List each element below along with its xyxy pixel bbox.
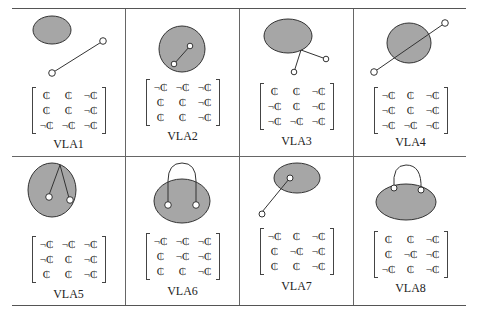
matrix-entry: ₵ <box>400 88 422 103</box>
matrix-entry: ₵ <box>58 103 80 118</box>
matrix-entry: ¬₵ <box>80 252 102 267</box>
matrix-entry: ¬₵ <box>378 103 400 118</box>
cell-label: VLA4 <box>354 135 467 150</box>
line-looping-outside-region-icon <box>126 157 239 237</box>
matrix-entry: ₵ <box>264 244 286 259</box>
matrix-entry: ¬₵ <box>194 234 216 249</box>
relation-matrix: ₵ ₵ ¬₵ ¬₵ ₵ ¬₵ ¬₵ ¬₵ ¬₵ <box>260 83 334 130</box>
matrix-entry: ¬₵ <box>422 247 444 262</box>
matrix-entry: ¬₵ <box>422 103 444 118</box>
matrix-entry: ¬₵ <box>150 234 172 249</box>
matrix-entry: ¬₵ <box>378 118 400 133</box>
line-crossing-region-icon <box>354 9 467 84</box>
matrix-entry: ₵ <box>264 259 286 274</box>
matrix-entry: ₵ <box>378 232 400 247</box>
matrix-entry: ¬₵ <box>80 237 102 252</box>
matrix-entry: ¬₵ <box>264 114 286 129</box>
matrix-entry: ¬₵ <box>36 118 58 133</box>
relation-matrix: ¬₵ ¬₵ ¬₵ ¬₵ ₵ ¬₵ ₵ ₵ ¬₵ <box>32 236 106 283</box>
matrix-entry: ₵ <box>150 110 172 125</box>
cell-vla5: ¬₵ ¬₵ ¬₵ ¬₵ ₵ ¬₵ ₵ ₵ ¬₵ VLA5 <box>12 157 125 304</box>
matrix-entry: ₵ <box>286 229 308 244</box>
matrix-entry: ¬₵ <box>36 237 58 252</box>
cell-vla1: ₵ ₵ ¬₵ ₵ ₵ ¬₵ ¬₵ ¬₵ ¬₵ VLA1 <box>12 9 125 156</box>
matrix-entry: ¬₵ <box>80 267 102 282</box>
relation-matrix: ¬₵ ¬₵ ¬₵ ₵ ¬₵ ¬₵ ₵ ₵ ¬₵ <box>146 233 220 280</box>
matrix-entry: ¬₵ <box>308 99 330 114</box>
matrix-entry: ¬₵ <box>194 80 216 95</box>
matrix-entry: ¬₵ <box>308 229 330 244</box>
matrix-entry: ₵ <box>286 259 308 274</box>
matrix-entry: ¬₵ <box>400 118 422 133</box>
matrix-entry: ¬₵ <box>264 229 286 244</box>
relation-matrix: ₵ ₵ ¬₵ ₵ ¬₵ ¬₵ ¬₵ ₵ ¬₵ <box>374 231 448 278</box>
relation-matrix: ₵ ₵ ¬₵ ₵ ₵ ¬₵ ¬₵ ¬₵ ¬₵ <box>32 87 106 134</box>
matrix-entry: ¬₵ <box>378 262 400 277</box>
matrix-entry: ¬₵ <box>422 118 444 133</box>
cell-vla3: ₵ ₵ ¬₵ ¬₵ ₵ ¬₵ ¬₵ ¬₵ ¬₵ VLA3 <box>240 9 353 156</box>
matrix-entry: ₵ <box>286 99 308 114</box>
matrix-entry: ₵ <box>378 247 400 262</box>
cell-label: VLA8 <box>354 281 467 296</box>
matrix-entry: ₵ <box>400 103 422 118</box>
matrix-entry: ¬₵ <box>172 234 194 249</box>
cell-vla8: ₵ ₵ ¬₵ ₵ ¬₵ ¬₵ ¬₵ ₵ ¬₵ VLA8 <box>354 157 467 304</box>
matrix-entry: ₵ <box>36 103 58 118</box>
line-looping-inside-region-icon <box>12 157 125 237</box>
matrix-entry: ₵ <box>58 252 80 267</box>
matrix-entry: ¬₵ <box>400 247 422 262</box>
matrix-entry: ¬₵ <box>80 103 102 118</box>
cell-label: VLA2 <box>126 129 239 144</box>
cell-vla2: ¬₵ ¬₵ ¬₵ ₵ ₵ ¬₵ ₵ ₵ ¬₵ VLA2 <box>126 9 239 156</box>
matrix-entry: ¬₵ <box>422 232 444 247</box>
matrix-entry: ¬₵ <box>308 84 330 99</box>
matrix-entry: ¬₵ <box>308 114 330 129</box>
matrix-entry: ₵ <box>172 110 194 125</box>
matrix-entry: ¬₵ <box>172 249 194 264</box>
cell-vla4: ¬₵ ₵ ¬₵ ¬₵ ₵ ¬₵ ¬₵ ¬₵ ¬₵ VLA4 <box>354 9 467 156</box>
matrix-entry: ₵ <box>172 264 194 279</box>
matrix-entry: ₵ <box>36 267 58 282</box>
matrix-entry: ¬₵ <box>80 88 102 103</box>
matrix-entry: ₵ <box>58 88 80 103</box>
relation-matrix: ¬₵ ₵ ¬₵ ₵ ¬₵ ¬₵ ₵ ₵ ¬₵ <box>260 228 334 275</box>
matrix-entry: ¬₵ <box>58 237 80 252</box>
matrix-entry: ₵ <box>36 88 58 103</box>
matrix-entry: ₵ <box>150 95 172 110</box>
matrix-entry: ¬₵ <box>264 99 286 114</box>
cell-label: VLA6 <box>126 284 239 299</box>
matrix-entry: ¬₵ <box>286 114 308 129</box>
line-entering-region-icon <box>240 157 353 232</box>
matrix-entry: ₵ <box>400 262 422 277</box>
matrix-entry: ¬₵ <box>194 249 216 264</box>
cell-label: VLA7 <box>240 279 353 294</box>
cell-label: VLA3 <box>240 134 353 149</box>
matrix-entry: ₵ <box>264 84 286 99</box>
matrix-entry: ¬₵ <box>36 252 58 267</box>
matrix-entry: ¬₵ <box>308 259 330 274</box>
matrix-entry: ¬₵ <box>422 88 444 103</box>
line-looping-on-boundary-icon <box>354 157 467 232</box>
matrix-entry: ¬₵ <box>378 88 400 103</box>
cell-label: VLA1 <box>12 137 125 152</box>
matrix-entry: ¬₵ <box>422 262 444 277</box>
matrix-entry: ¬₵ <box>150 80 172 95</box>
matrix-entry: ₵ <box>58 267 80 282</box>
matrix-entry: ₵ <box>150 264 172 279</box>
matrix-entry: ¬₵ <box>194 95 216 110</box>
matrix-entry: ¬₵ <box>80 118 102 133</box>
cell-label: VLA5 <box>12 287 125 302</box>
matrix-entry: ₵ <box>400 232 422 247</box>
vla-table: ₵ ₵ ¬₵ ₵ ₵ ¬₵ ¬₵ ¬₵ ¬₵ VLA1 ¬₵ ¬₵ ¬₵ ₵ ₵… <box>12 8 466 306</box>
relation-matrix: ¬₵ ₵ ¬₵ ¬₵ ₵ ¬₵ ¬₵ ¬₵ ¬₵ <box>374 87 448 134</box>
matrix-entry: ¬₵ <box>58 118 80 133</box>
matrix-entry: ₵ <box>286 84 308 99</box>
line-touching-region-icon <box>240 9 353 89</box>
cell-vla7: ¬₵ ₵ ¬₵ ₵ ¬₵ ¬₵ ₵ ₵ ¬₵ VLA7 <box>240 157 353 304</box>
matrix-entry: ¬₵ <box>286 244 308 259</box>
region-line-disjoint-icon <box>12 9 125 94</box>
matrix-entry: ¬₵ <box>308 244 330 259</box>
matrix-entry: ¬₵ <box>194 264 216 279</box>
matrix-entry: ¬₵ <box>172 80 194 95</box>
matrix-entry: ¬₵ <box>194 110 216 125</box>
